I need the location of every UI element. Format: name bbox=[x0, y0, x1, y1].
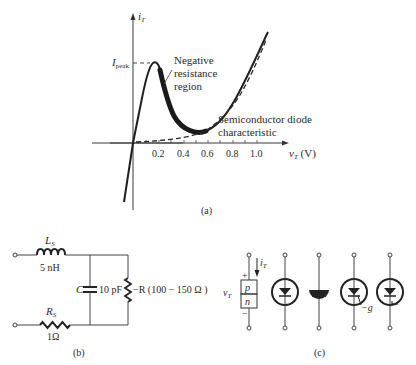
p-label: p bbox=[244, 282, 250, 293]
x-tick-label: 0.4 bbox=[177, 148, 190, 159]
resistor-label: RS bbox=[45, 305, 57, 319]
x-tick-label: 0.2 bbox=[152, 148, 165, 159]
terminal-bottom bbox=[13, 323, 17, 327]
n-label: n bbox=[245, 296, 250, 307]
y-axis-label: iT bbox=[138, 10, 146, 24]
gate-label: −g bbox=[361, 302, 373, 313]
diode-annotation: Semiconductor diode characteristic bbox=[218, 113, 315, 138]
tunnel-diode-iv-chart: 0.2 0.4 0.6 0.8 1.0 vT (V) iT Ipeak Nega… bbox=[92, 10, 316, 217]
current-label: iT bbox=[260, 257, 268, 270]
x-tick-label: 0.8 bbox=[226, 148, 239, 159]
half-disk-diode-symbol bbox=[309, 290, 329, 299]
minus-sign: − bbox=[242, 308, 248, 319]
capacitor-value: 10 pF bbox=[99, 284, 123, 295]
x-axis-label: vT (V) bbox=[289, 147, 316, 161]
y-axis-arrow-icon bbox=[131, 13, 136, 20]
resistor-symbol bbox=[40, 322, 70, 328]
x-tick-label: 0.6 bbox=[201, 148, 214, 159]
terminal-top bbox=[13, 253, 17, 257]
caption-b: (b) bbox=[73, 347, 85, 359]
x-tick-label: 1.0 bbox=[250, 148, 263, 159]
caption-c: (c) bbox=[314, 347, 325, 359]
voltage-label: vT bbox=[223, 287, 232, 300]
negative-resistance-label: −R (100 − 150 Ω ) bbox=[133, 284, 208, 296]
inductor-value: 5 nH bbox=[40, 262, 60, 273]
capacitor-label: C bbox=[76, 283, 84, 295]
resistor-value: 1Ω bbox=[47, 331, 59, 342]
inductor-label: LS bbox=[44, 234, 55, 248]
caption-a: (a) bbox=[201, 205, 212, 217]
negative-resistance-annotation: Negative resistance region bbox=[174, 54, 220, 92]
inductor-symbol bbox=[37, 249, 65, 255]
plus-sign: + bbox=[242, 270, 248, 281]
peak-current-label: Ipeak bbox=[111, 56, 129, 70]
figure: 0.2 0.4 0.6 0.8 1.0 vT (V) iT Ipeak Nega… bbox=[0, 0, 416, 365]
x-axis-arrow-icon bbox=[282, 141, 289, 146]
negative-resistance-leader bbox=[164, 70, 172, 84]
negative-resistor-symbol bbox=[125, 278, 131, 302]
